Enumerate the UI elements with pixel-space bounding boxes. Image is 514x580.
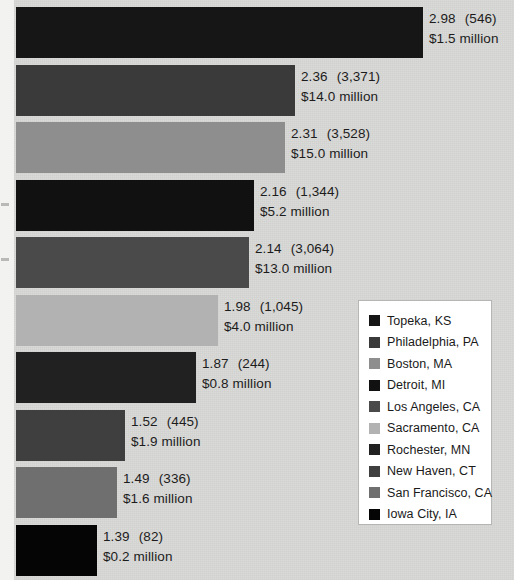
bar-segment: [16, 410, 125, 461]
bar-rate-value: 1.39: [103, 529, 130, 544]
bar-rate-value: 2.31: [291, 126, 318, 141]
legend-item-label: San Francisco, CA: [387, 486, 492, 500]
legend-item-label: Philadelphia, PA: [387, 335, 479, 349]
bar-rate-value: 2.14: [255, 241, 282, 256]
legend-swatch-icon: [369, 358, 380, 369]
legend-item-label: New Haven, CT: [387, 464, 476, 478]
legend-item-label: Iowa City, IA: [387, 507, 457, 521]
legend-item[interactable]: Philadelphia, PA: [369, 332, 491, 354]
legend-item-label: Detroit, MI: [387, 378, 445, 392]
bar-count-value: (546): [465, 11, 497, 26]
bar-rate-value: 1.98: [224, 299, 251, 314]
bar-value-label: 1.49(336)$1.6 million: [123, 469, 192, 509]
bar-count-value: (1,045): [260, 299, 303, 314]
legend-swatch-icon: [369, 401, 380, 412]
bar-segment: [16, 180, 254, 231]
legend-item-label: Sacramento, CA: [387, 421, 479, 435]
legend-item[interactable]: Detroit, MI: [369, 375, 491, 397]
legend-item-label: Boston, MA: [387, 357, 452, 371]
legend-swatch-icon: [369, 315, 380, 326]
bar-value-label: 2.36(3,371)$14.0 million: [301, 67, 380, 107]
bar-amount-value: $1.6 million: [123, 489, 192, 509]
bar-count-value: (3,528): [327, 126, 370, 141]
bar-rate-value: 1.52: [131, 414, 158, 429]
legend-item-label: Los Angeles, CA: [387, 400, 480, 414]
legend-swatch-icon: [369, 444, 380, 455]
bar-count-value: (82): [139, 529, 163, 544]
bar-amount-value: $0.8 million: [202, 374, 271, 394]
bar-rate-value: 2.16: [260, 184, 287, 199]
bar-amount-value: $0.2 million: [103, 547, 172, 567]
legend-item-label: Topeka, KS: [387, 314, 451, 328]
bar-amount-value: $5.2 million: [260, 202, 339, 222]
bar-segment: [16, 237, 249, 288]
bar-value-label: 2.31(3,528)$15.0 million: [291, 124, 370, 164]
bar-amount-value: $1.9 million: [131, 432, 200, 452]
chart-legend: Topeka, KSPhiladelphia, PABoston, MADetr…: [358, 300, 492, 525]
bar-rate-value: 2.98: [429, 11, 456, 26]
legend-swatch-icon: [369, 337, 380, 348]
legend-swatch-icon: [369, 487, 380, 498]
bar-count-value: (3,371): [337, 69, 380, 84]
legend-item[interactable]: Rochester, MN: [369, 439, 491, 461]
bar-segment: [16, 525, 97, 576]
bar-segment: [16, 65, 295, 116]
bar-count-value: (336): [159, 471, 191, 486]
legend-item-label: Rochester, MN: [387, 443, 470, 457]
legend-swatch-icon: [369, 466, 380, 477]
bar-amount-value: $4.0 million: [224, 317, 303, 337]
bar-count-value: (244): [238, 356, 270, 371]
bar-count-value: (3,064): [291, 241, 334, 256]
bar-value-label: 2.16(1,344)$5.2 million: [260, 182, 339, 222]
bar-rate-value: 2.36: [301, 69, 328, 84]
bar-value-label: 1.87(244)$0.8 million: [202, 354, 271, 394]
legend-item[interactable]: Boston, MA: [369, 353, 491, 375]
legend-item[interactable]: San Francisco, CA: [369, 482, 491, 504]
legend-item[interactable]: New Haven, CT: [369, 461, 491, 483]
legend-swatch-icon: [369, 423, 380, 434]
bar-value-label: 1.52(445)$1.9 million: [131, 412, 200, 452]
bar-value-label: 1.39(82)$0.2 million: [103, 527, 172, 567]
bar-amount-value: $13.0 million: [255, 259, 334, 279]
bar-rate-value: 1.87: [202, 356, 229, 371]
bar-value-label: 1.98(1,045)$4.0 million: [224, 297, 303, 337]
bar-segment: [16, 467, 117, 518]
legend-item[interactable]: Sacramento, CA: [369, 418, 491, 440]
bar-value-label: 2.14(3,064)$13.0 million: [255, 239, 334, 279]
legend-item[interactable]: Los Angeles, CA: [369, 396, 491, 418]
bar-count-value: (445): [167, 414, 199, 429]
legend-item[interactable]: Topeka, KS: [369, 310, 491, 332]
bar-rate-value: 1.49: [123, 471, 150, 486]
bar-segment: [16, 7, 423, 58]
bar-segment: [16, 295, 218, 346]
bar-amount-value: $1.5 million: [429, 29, 498, 49]
bar-amount-value: $15.0 million: [291, 144, 370, 164]
bar-segment: [16, 122, 285, 173]
legend-item[interactable]: Iowa City, IA: [369, 504, 491, 526]
bar-segment: [16, 352, 196, 403]
legend-swatch-icon: [369, 380, 380, 391]
bar-count-value: (1,344): [296, 184, 339, 199]
bar-amount-value: $14.0 million: [301, 87, 380, 107]
legend-swatch-icon: [369, 509, 380, 520]
bar-value-label: 2.98(546)$1.5 million: [429, 9, 498, 49]
